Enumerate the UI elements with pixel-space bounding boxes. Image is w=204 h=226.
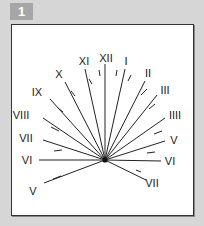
sundial-diagram: VVIVIIVIIIIXXXIXIIIIIIIIIIIIVVIVII [0, 0, 204, 226]
half-hour-tick [136, 170, 141, 172]
hour-line-right-iiii [105, 118, 165, 160]
hour-label-right-ii: II [145, 67, 151, 79]
half-hour-tick [58, 108, 63, 112]
hour-label-left-ix: IX [32, 86, 43, 98]
hour-line-right-v [105, 141, 165, 160]
half-hour-tick [149, 104, 155, 109]
half-hour-tick [128, 75, 131, 81]
hour-label-right-iii: III [160, 84, 169, 96]
hour-line-right-ii [105, 81, 145, 160]
hour-label-left-vii: VII [19, 132, 32, 144]
hour-label-right-vi: VI [165, 155, 175, 167]
hour-label-left-xi: XI [79, 55, 89, 67]
hour-label-right-iiii: IIII [169, 109, 181, 121]
half-hour-tick [116, 70, 117, 76]
hour-label-left-v: V [29, 185, 37, 197]
hour-line-right-iii [105, 95, 157, 160]
half-hour-tick [89, 79, 92, 84]
hour-line-right-vi [105, 160, 161, 161]
hour-line-left-v [44, 160, 105, 183]
hour-line-right-vii [105, 160, 146, 180]
hour-label-right-i: I [124, 55, 127, 67]
hour-line-left-viii [43, 118, 105, 160]
hour-lines [39, 64, 165, 183]
half-hour-tick [154, 131, 162, 134]
half-hour-tick [54, 150, 62, 151]
hour-line-left-xi [85, 69, 105, 160]
gnomon-center-point [102, 157, 107, 162]
hour-label-left-x: X [55, 68, 63, 80]
hour-line-right-i [105, 69, 125, 160]
hour-label-top-xii: XII [99, 52, 112, 64]
hour-label-right-v: V [170, 134, 178, 146]
half-hour-tick [99, 70, 100, 76]
half-hour-tick [141, 89, 147, 95]
hour-line-left-x [65, 82, 105, 160]
hour-label-left-vi: VI [22, 154, 32, 166]
hour-label-right-vii: VII [145, 177, 158, 189]
half-hour-tick [147, 152, 155, 153]
hour-label-left-viii: VIII [13, 109, 30, 121]
